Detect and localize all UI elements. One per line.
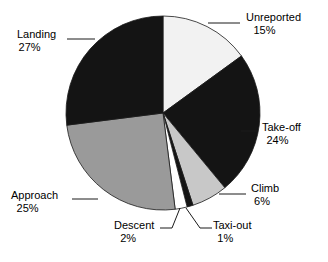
pie-label-takeoff: Take-off 24% xyxy=(262,121,301,147)
pie-label-unreported: Unreported 15% xyxy=(246,11,301,37)
pie-label-taxiout-percent: 1% xyxy=(213,232,252,245)
pie-label-landing: Landing 27% xyxy=(17,28,56,54)
pie-slice-landing[interactable] xyxy=(66,16,163,125)
pie-label-taxiout: Taxi-out 1% xyxy=(213,219,252,245)
pie-label-takeoff-name: Take-off xyxy=(262,121,301,134)
pie-label-descent-percent: 2% xyxy=(114,232,154,245)
pie-label-unreported-name: Unreported xyxy=(246,11,301,24)
pie-label-descent: Descent 2% xyxy=(114,219,154,245)
pie-label-climb: Climb 6% xyxy=(251,182,279,208)
leader-line-descent xyxy=(160,208,180,228)
pie-slice-approach[interactable] xyxy=(67,113,175,210)
pie-label-takeoff-percent: 24% xyxy=(262,134,301,147)
pie-label-climb-percent: 6% xyxy=(251,195,279,208)
leader-line-taxiout xyxy=(186,208,212,228)
pie-label-taxiout-name: Taxi-out xyxy=(213,219,252,232)
pie-label-landing-name: Landing xyxy=(17,28,56,41)
pie-label-descent-name: Descent xyxy=(114,219,154,232)
pie-label-climb-name: Climb xyxy=(251,182,279,195)
pie-label-unreported-percent: 15% xyxy=(246,24,301,37)
pie-label-approach: Approach 25% xyxy=(11,189,58,215)
pie-chart-figure: Unreported 15% Take-off 24% Climb 6% Tax… xyxy=(0,0,328,262)
pie-label-landing-percent: 27% xyxy=(17,41,56,54)
pie-slices xyxy=(66,16,260,210)
pie-label-approach-percent: 25% xyxy=(11,202,58,215)
pie-label-approach-name: Approach xyxy=(11,189,58,202)
